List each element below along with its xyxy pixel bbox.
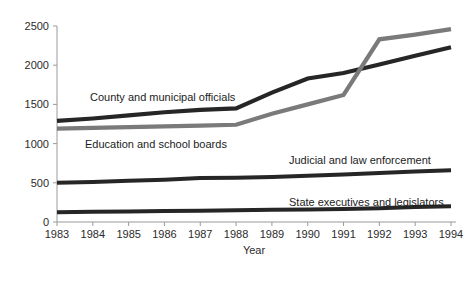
x-tick-label: 1990 [295, 228, 319, 240]
series-line-1 [57, 29, 451, 129]
x-tick-label: 1991 [331, 228, 355, 240]
y-tick-label: 2500 [25, 20, 49, 32]
line-chart: 0500100015002000250019831984198519861987… [0, 0, 476, 285]
y-tick-label: 1000 [25, 138, 49, 150]
series-line-2 [57, 170, 451, 183]
x-tick-label: 1987 [188, 228, 212, 240]
series-annotation-0: County and municipal officials [90, 91, 236, 103]
x-tick-label: 1983 [45, 228, 69, 240]
x-tick-label: 1992 [367, 228, 391, 240]
series-line-0 [57, 47, 451, 121]
x-tick-label: 1989 [260, 228, 284, 240]
y-tick-label: 0 [43, 216, 49, 228]
x-tick-label: 1994 [439, 228, 463, 240]
x-tick-label: 1984 [81, 228, 105, 240]
y-tick-label: 1500 [25, 98, 49, 110]
series-annotation-2: Judicial and law enforcement [289, 154, 431, 166]
x-tick-label: 1986 [152, 228, 176, 240]
x-tick-label: 1993 [403, 228, 427, 240]
x-axis-title: Year [243, 244, 266, 256]
series-annotation-3: State executives and legislators [289, 196, 444, 208]
y-tick-label: 500 [31, 177, 49, 189]
series-annotation-1: Education and school boards [85, 138, 227, 150]
y-tick-label: 2000 [25, 59, 49, 71]
x-tick-label: 1985 [116, 228, 140, 240]
x-tick-label: 1988 [224, 228, 248, 240]
chart-canvas: 0500100015002000250019831984198519861987… [0, 0, 476, 285]
